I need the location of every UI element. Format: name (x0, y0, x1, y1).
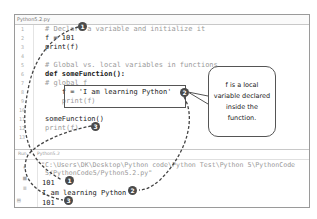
code-line-comment: # Declare a variable and initialize it (45, 25, 205, 34)
line-number: 1 (21, 25, 24, 34)
line-number: 10 (19, 106, 25, 115)
console-tab-python52[interactable]: Python5.2 (37, 151, 60, 156)
stop-icon[interactable]: ■ (23, 174, 27, 181)
annotation-badge-1: 1 (78, 22, 87, 31)
console-toolbar: ▸ ■ ≡ ▤ (15, 160, 38, 207)
callout-line: f is a local (213, 80, 271, 91)
line-number: 4 (21, 52, 24, 61)
line-number: 2 (21, 34, 24, 43)
line-number: 12 (19, 124, 25, 133)
console-command-cont: 5/PythonCode5/Python5.2.py" (45, 169, 152, 178)
console-output-line: 101 (42, 179, 55, 188)
menu-icon[interactable]: ≡ (23, 184, 27, 191)
run-console: Run Python5.2 ▸ ■ ≡ ▤ "C:\Users\DK\Deskt… (15, 149, 309, 207)
callout-line: variable declared (213, 91, 271, 102)
print-icon[interactable]: ▤ (17, 196, 21, 203)
callout-bubble: f is a local variable declared inside th… (208, 66, 276, 137)
annotation-badge-3-output: 3 (64, 196, 73, 205)
line-number: 11 (19, 115, 25, 124)
editor-tab-bar: Python5.2.py (15, 15, 309, 25)
annotation-badge-1-output: 1 (65, 176, 74, 185)
line-number: 13 (19, 133, 25, 142)
code-line-print: print(f) (45, 43, 79, 52)
line-number: 7 (21, 79, 24, 88)
annotation-badge-2-output: 2 (128, 186, 137, 195)
callout-line: function. (213, 113, 271, 124)
code-line-def: def someFunction(): (45, 70, 125, 79)
line-number: 9 (21, 97, 24, 106)
code-line-comment: # Global vs. local variables in function… (45, 61, 218, 70)
console-tab-bar: Run Python5.2 (15, 150, 309, 160)
line-number: 3 (21, 43, 24, 52)
console-output-line: 101 (42, 199, 55, 208)
console-tab-run[interactable]: Run (18, 151, 27, 156)
console-output-line: I am learning Python (42, 189, 126, 198)
code-line-print-final: print(f) (45, 124, 79, 133)
line-number: 5 (21, 61, 24, 70)
annotation-badge-3: 3 (91, 122, 100, 131)
code-line-assign: f = 101 (45, 34, 75, 43)
callout-line: inside the (213, 102, 271, 113)
rerun-icon[interactable]: ▸ (23, 163, 27, 170)
highlight-box (64, 85, 186, 108)
line-number-gutter: 1 2 3 4 5 6 7 8 9 10 11 12 13 (15, 25, 34, 148)
editor-tab[interactable]: Python5.2.py (17, 16, 50, 23)
callout-text: f is a local variable declared inside th… (213, 80, 271, 124)
line-number: 6 (21, 70, 24, 79)
line-number: 8 (21, 88, 24, 97)
annotation-badge-2: 2 (180, 88, 189, 97)
